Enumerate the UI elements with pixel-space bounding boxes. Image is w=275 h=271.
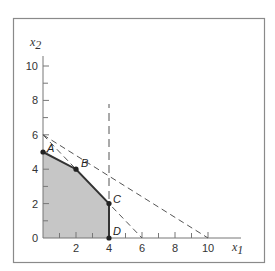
x-tick-label-8: 8: [172, 242, 178, 254]
vertex-c-label: C: [113, 193, 121, 205]
y-tick-label-6: 6: [32, 129, 38, 141]
x-tick-label-10: 10: [202, 242, 214, 254]
vertex-a-label: A: [46, 142, 54, 154]
y-tick-label-0: 0: [32, 232, 38, 244]
vertex-d: [106, 235, 111, 240]
x-tick-label-2: 2: [73, 242, 79, 254]
vertex-b: [73, 167, 78, 172]
x-tick-label-6: 6: [139, 242, 145, 254]
vertex-d-label: D: [113, 225, 121, 237]
feasible-region-chart: A B C D 0 2 4 6 8 10 2 4 6 8 10 x2 x1: [0, 0, 275, 271]
vertex-c: [106, 201, 111, 206]
y-tick-label-10: 10: [26, 60, 38, 72]
y-tick-label-8: 8: [32, 94, 38, 106]
y-tick-label-4: 4: [32, 163, 38, 175]
vertex-a: [40, 149, 45, 154]
vertex-b-label: B: [81, 157, 88, 169]
y-tick-label-2: 2: [32, 198, 38, 210]
x-tick-label-4: 4: [106, 242, 112, 254]
